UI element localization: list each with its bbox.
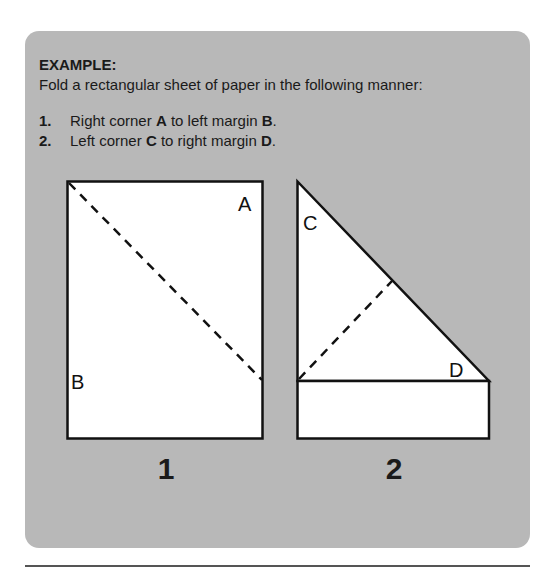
corner-label-b: B (71, 371, 84, 393)
corner-label-c: C (303, 212, 317, 234)
fold-diagrams: A B C D (0, 0, 560, 576)
figure-1: A B (68, 182, 263, 439)
divider-line (25, 565, 530, 567)
figure-2: C D (298, 182, 490, 439)
corner-label-a: A (238, 193, 252, 215)
figure-label-2: 2 (374, 452, 414, 486)
corner-label-d: D (449, 359, 463, 381)
figure-label-1: 1 (146, 452, 186, 486)
